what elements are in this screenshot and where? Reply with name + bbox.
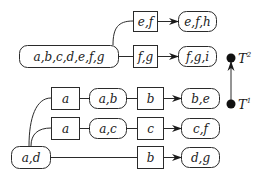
separator-label: f,g	[137, 50, 154, 64]
node-label: c,f	[193, 122, 211, 136]
node-label: d,g	[191, 151, 210, 165]
node-ac: a,c	[90, 119, 127, 139]
separator-fg: f,g	[134, 46, 158, 68]
separator-label: e,f	[138, 15, 156, 29]
t2-dot-icon	[227, 54, 236, 63]
separator-label: c	[147, 122, 154, 136]
edge-ad-to-a2	[31, 128, 51, 146]
t1-label: T1	[238, 97, 251, 112]
node-ab: a,b	[90, 89, 127, 109]
t2-label: T2	[238, 51, 252, 66]
t1-dot-icon	[227, 100, 236, 109]
separator-ef: e,f	[134, 12, 158, 32]
separator-a-row2: a	[52, 118, 80, 140]
timeline: T2 T1	[227, 51, 252, 112]
node-cf: c,f	[182, 119, 220, 139]
node-label: e,f,h	[184, 15, 210, 29]
separator-label: a	[62, 122, 69, 136]
node-label: a,d	[22, 151, 41, 165]
separator-a-row1: a	[52, 88, 80, 110]
node-abcdefg: a,b,c,d,e,f,g	[20, 46, 119, 68]
node-label: f,g,i	[185, 50, 209, 64]
node-label: a,b,c,d,e,f,g	[34, 50, 105, 64]
separator-b-row1: b	[138, 88, 164, 110]
edge-abcdefg-to-ef	[113, 21, 133, 45]
separator-c: c	[138, 118, 164, 140]
separator-label: b	[147, 92, 155, 106]
node-label: b,e	[191, 92, 210, 106]
separator-label: b	[147, 151, 155, 165]
node-dg: d,g	[182, 148, 220, 168]
separator-b-row3: b	[138, 147, 164, 169]
separator-label: a	[62, 92, 69, 106]
node-label: a,c	[99, 122, 117, 136]
node-be: b,e	[182, 89, 220, 109]
node-label: a,b	[99, 92, 118, 106]
node-efh: e,f,h	[179, 12, 217, 32]
node-fgi: f,g,i	[179, 47, 217, 67]
tree-decomposition-diagram: a,b,c,d,e,f,g e,f e,f,h f,g f,g,i a a,b …	[0, 0, 265, 177]
node-ad: a,d	[12, 147, 51, 169]
